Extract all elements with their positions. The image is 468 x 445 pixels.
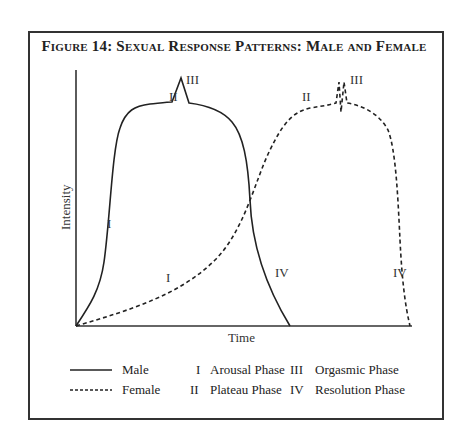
y-axis-label: Intensity bbox=[58, 184, 73, 230]
male-label-i: I bbox=[107, 216, 111, 231]
legend-phase-iv-num: IV bbox=[290, 382, 304, 398]
legend-phase-i-num: I bbox=[196, 362, 200, 378]
x-axis-label: Time bbox=[228, 330, 255, 345]
legend-phase-i: Arousal Phase bbox=[210, 362, 285, 378]
legend-phase-ii-num: II bbox=[190, 382, 199, 398]
male-label-ii: II bbox=[169, 89, 178, 104]
female-curve bbox=[76, 82, 410, 326]
legend-male: Male bbox=[122, 362, 149, 378]
legend-phase-iii-num: III bbox=[290, 362, 303, 378]
male-curve bbox=[76, 78, 290, 326]
legend-female: Female bbox=[122, 382, 160, 398]
legend-phase-ii: Plateau Phase bbox=[210, 382, 282, 398]
legend-phase-iii: Orgasmic Phase bbox=[315, 362, 399, 378]
chart-plot: II III I IV II III I IV Time Intensity bbox=[0, 0, 468, 445]
male-label-iii: III bbox=[186, 72, 199, 87]
legend-phase-iv: Resolution Phase bbox=[315, 382, 405, 398]
female-label-ii: II bbox=[302, 89, 311, 104]
female-label-i: I bbox=[166, 270, 170, 285]
female-label-iv: IV bbox=[393, 265, 407, 280]
female-label-iii: III bbox=[350, 72, 363, 87]
male-label-iv: IV bbox=[275, 265, 289, 280]
